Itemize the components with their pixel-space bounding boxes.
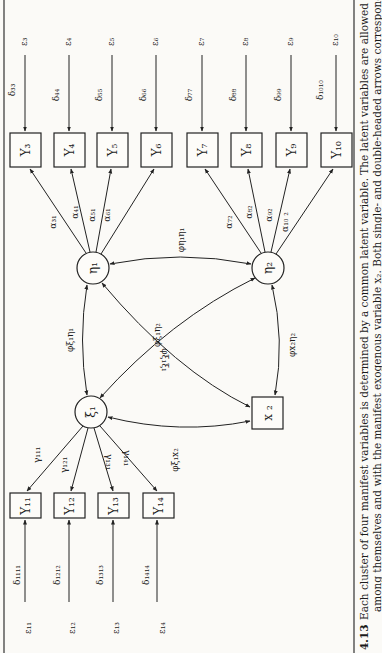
loading-label: α₆₁ [102, 208, 112, 221]
figure-number: 4.13 [358, 624, 370, 650]
loading-label: α₃₁ [48, 215, 58, 228]
top-indicator-group: Y₃ Y₄ Y₅ Y₆ Y₇ Y₈ Y₉ Y₁₀ ε₃ ε₄ ε₅ ε₆ ε₇ … [7, 34, 352, 254]
cov-label-eta1-eta1: φη₁η₁ [176, 228, 186, 252]
error-label: ε₅ [106, 37, 116, 46]
error-label: ε₁₁ [23, 622, 33, 634]
loading-label: α₅₁ [87, 208, 97, 221]
caption-line-1: Each cluster of four manifest variables … [358, 0, 370, 620]
variance-label: δ₁₁₁₁ [12, 565, 22, 585]
error-label: ε₁₃ [111, 622, 121, 634]
error-label: ε₁₄ [157, 622, 167, 634]
latent-xi1-label: ξ₁ [84, 406, 98, 417]
loading-label: γ₁₁₁ [32, 447, 42, 463]
latent-eta1-label: η₁ [86, 262, 100, 274]
loading-label: γ₁₃₁ [104, 454, 114, 470]
indicator-label: Y₉ [285, 143, 299, 157]
variance-label: δ₅₅ [94, 88, 104, 101]
error-label: ε₄ [63, 37, 73, 46]
loading-label: α₁₀ ₂ [280, 212, 290, 232]
path-diagram: Y₃ Y₄ Y₅ Y₆ Y₇ Y₈ Y₉ Y₁₀ ε₃ ε₄ ε₅ ε₆ ε₇ … [0, 0, 382, 653]
variance-label: δ₁₄₁₄ [141, 565, 151, 585]
variance-label: δ₈₈ [228, 88, 238, 101]
indicator-label: Y₁₂ [63, 497, 77, 516]
indicator-label: Y₃ [19, 143, 33, 157]
bottom-error-arrows [25, 520, 157, 602]
path-diagram-page: Y₃ Y₄ Y₅ Y₆ Y₇ Y₈ Y₉ Y₁₀ ε₃ ε₄ ε₅ ε₆ ε₇ … [0, 0, 382, 653]
cov-label-xi1-eta1: φξ₁η₁ [65, 328, 75, 352]
indicator-label: Y₇ [196, 143, 210, 157]
variance-label: δ₃₃ [7, 83, 17, 96]
loading-label: γ₁₂₁ [59, 457, 69, 473]
cov-label-xi1-x2: φξ₁x₂ [170, 448, 180, 472]
latent-eta2-label: η₂ [261, 262, 275, 274]
loading-label: α₄₁ [70, 205, 80, 218]
cov-label-xi1-eta2: φξ₁η₂ [152, 323, 162, 347]
cov-label-xi1-xi1: φξ₁ξ₁ [160, 348, 170, 371]
indicator-label: Y₁₀ [330, 141, 344, 160]
loading-label: α₈₂ [244, 205, 254, 219]
variance-label: δ₉₉ [273, 88, 283, 101]
error-label: ε₈ [240, 37, 250, 46]
variance-label: δ₆₆ [138, 88, 148, 101]
loading-label: γ₁₄₁ [122, 450, 132, 466]
indicator-label: Y₁₃ [107, 497, 121, 516]
top-error-arrows [25, 55, 336, 131]
caption-line-2: among themselves and with the manifest e… [371, 0, 382, 612]
indicator-label: Y₅ [106, 143, 120, 157]
indicator-label: Y₄ [63, 143, 77, 157]
indicator-label: Y₁₄ [152, 497, 166, 516]
error-label: ε₁₀ [330, 34, 340, 46]
variance-label: δ₁₃₁₃ [95, 565, 105, 585]
exogenous-x2-label: x ₂ [261, 405, 275, 421]
error-label: ε₃ [19, 37, 29, 46]
error-label: ε₆ [150, 37, 160, 46]
variance-label: δ₁₂₁₂ [52, 565, 62, 585]
cov-label-x2-eta2: φx₂η₂ [287, 333, 297, 357]
indicator-label: Y₈ [240, 143, 254, 157]
error-label: ε₉ [285, 37, 295, 46]
loading-label: α₉₂ [264, 208, 274, 222]
loading-label: α₇₂ [224, 215, 234, 229]
error-label: ε₁₂ [67, 622, 77, 634]
indicator-label: Y₁₁ [19, 497, 33, 516]
variance-label: δ₁₀₁₀ [315, 80, 325, 100]
variance-label: δ₄₄ [51, 88, 61, 101]
variance-label: δ₇₇ [184, 88, 194, 101]
indicator-label: Y₆ [150, 143, 164, 157]
loading-arrows-xi [27, 426, 157, 491]
covariance-arrows [83, 257, 280, 427]
figure-caption: 4.13 Each cluster of four manifest varia… [358, 0, 382, 650]
error-label: ε₇ [196, 37, 206, 46]
bottom-indicator-group: γ₁₁₁ γ₁₂₁ γ₁₃₁ γ₁₄₁ Y₁₁ Y₁₂ Y₁₃ Y₁₄ δ₁₁₁… [10, 426, 174, 634]
